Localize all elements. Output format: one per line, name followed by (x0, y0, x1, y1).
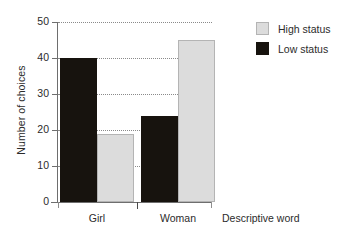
y-tick-label-40: 40 (9, 51, 49, 63)
y-tick-label-20: 20 (9, 123, 49, 135)
legend-item-high-status: High status (256, 22, 331, 35)
x-axis-title: Descriptive word (222, 212, 300, 224)
x-tick-1 (137, 202, 138, 209)
y-tick-30 (52, 94, 57, 95)
x-tick-2 (211, 202, 212, 208)
low-status-swatch-icon (256, 42, 269, 55)
y-axis-line (57, 22, 58, 202)
y-tick-40 (52, 58, 57, 59)
y-tick-label-50: 50 (9, 15, 49, 27)
bar-chart-figure: Number of choices 01020304050 GirlWoman … (0, 0, 356, 246)
y-tick-label-30: 30 (9, 87, 49, 99)
y-tick-50 (52, 22, 57, 23)
bar-girl-low-status (60, 58, 97, 202)
x-category-label-girl: Girl (57, 212, 137, 224)
y-tick-label-0: 0 (9, 195, 49, 207)
y-tick-label-10: 10 (9, 159, 49, 171)
y-tick-0 (52, 202, 57, 203)
gridline-50 (58, 22, 212, 23)
y-tick-10 (52, 166, 57, 167)
legend-label-low-status: Low status (278, 43, 328, 55)
y-tick-20 (52, 130, 57, 131)
legend-item-low-status: Low status (256, 42, 331, 55)
legend-label-high-status: High status (278, 23, 331, 35)
chart-legend: High status Low status (256, 22, 331, 62)
bar-girl-high-status (97, 134, 134, 202)
bar-woman-high-status (178, 40, 215, 202)
high-status-swatch-icon (256, 22, 269, 35)
y-axis-title: Number of choices (15, 45, 27, 175)
x-tick-0 (58, 202, 59, 208)
bar-woman-low-status (141, 116, 178, 202)
x-axis-line (51, 202, 212, 203)
x-category-label-woman: Woman (138, 212, 218, 224)
plot-area: GirlWoman (57, 22, 212, 202)
